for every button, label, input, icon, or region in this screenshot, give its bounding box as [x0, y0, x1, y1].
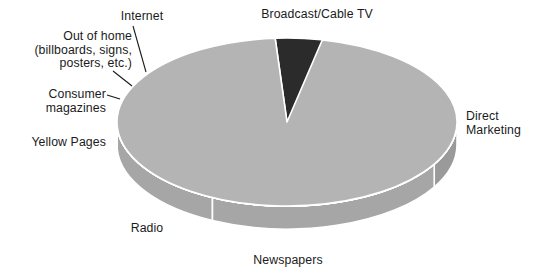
slice-label-direct-marketing: Direct Marketing: [466, 110, 538, 137]
pie-top-faces-group: [117, 38, 457, 206]
slice-label-consumer-magazines: Consumer magazines: [14, 88, 106, 115]
slice-label-internet: Internet: [106, 10, 178, 24]
slice-label-newspapers: Newspapers: [228, 254, 348, 268]
slice-label-broadcast-cable-tv: Broadcast/Cable TV: [222, 8, 412, 22]
outofhome-leader: [113, 71, 132, 86]
slice-label-yellow-pages: Yellow Pages: [14, 136, 106, 150]
pie-chart-figure: Broadcast/Cable TV Direct Marketing News…: [0, 0, 538, 279]
slice-label-radio: Radio: [110, 222, 184, 236]
internet-leader: [133, 26, 146, 72]
slice-label-out-of-home: Out of home (billboards, signs, posters,…: [6, 30, 132, 71]
consumer-leader: [107, 95, 120, 99]
